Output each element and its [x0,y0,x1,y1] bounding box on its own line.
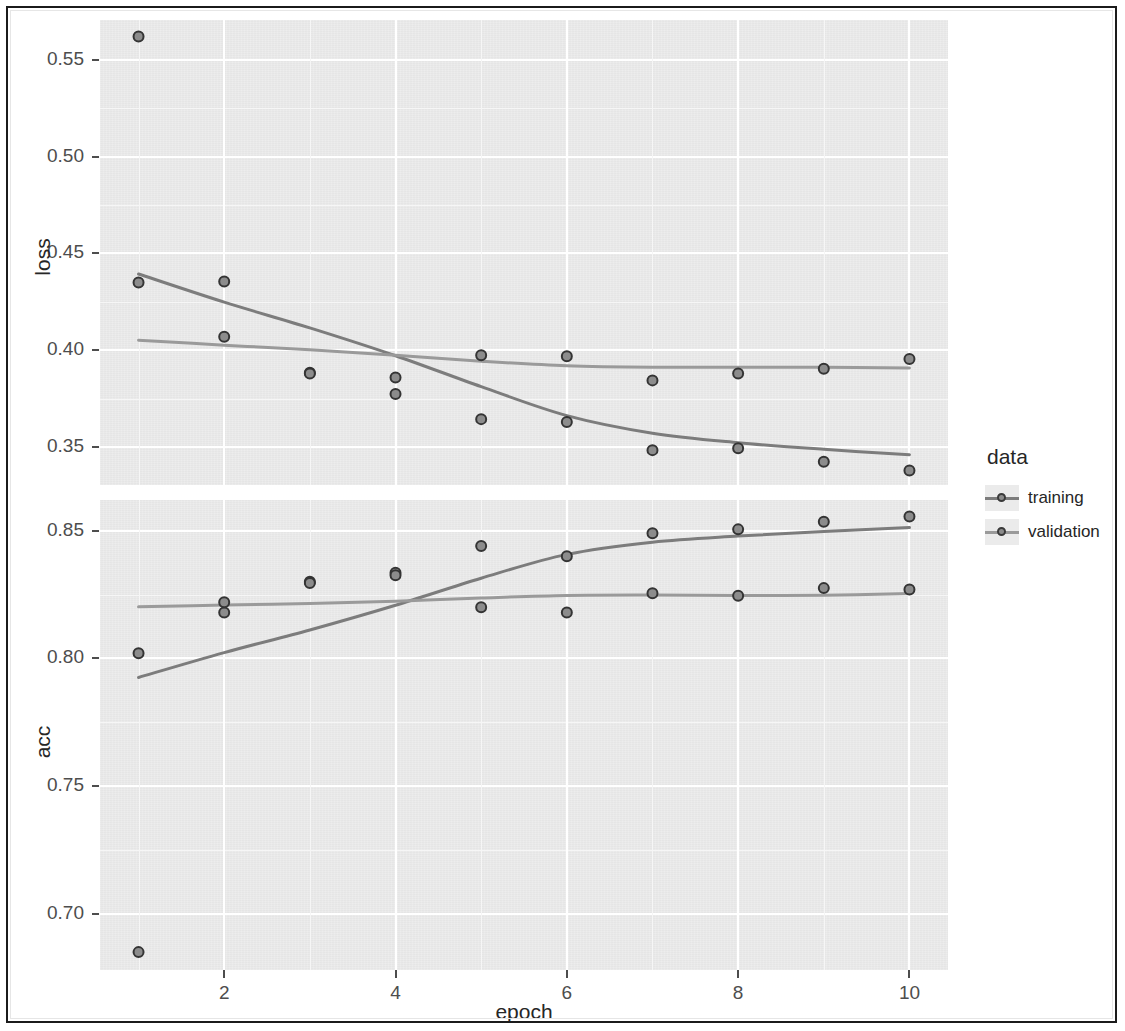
data-point-training [476,541,486,551]
data-point-validation [476,602,486,612]
smooth-line-validation [139,594,910,607]
legend-key-icon [985,519,1019,545]
smooth-line-training [139,528,910,678]
data-point-training [819,457,829,467]
legend-item-validation[interactable]: validation [985,517,1120,547]
x-axis-title: epoch [100,1000,948,1024]
panel-acc [100,500,948,970]
data-point-training [562,551,572,561]
legend-key-point [997,493,1006,502]
data-point-training [647,445,657,455]
data-point-validation [904,584,914,594]
y-tick-label: 0.80 [0,646,84,668]
series-layer-acc [100,500,948,970]
data-point-training [647,528,657,538]
smooth-line-validation [139,340,910,368]
legend-key-icon [985,485,1019,511]
data-point-training [562,417,572,427]
y-tick-mark [92,252,99,254]
legend-key-point [997,527,1006,536]
data-point-validation [305,578,315,588]
data-point-validation [134,278,144,288]
y-tick-label: 0.55 [0,48,84,70]
y-tick-label: 0.35 [0,435,84,457]
x-tick-mark [908,970,910,978]
data-point-validation [733,591,743,601]
data-point-validation [647,375,657,385]
y-axis-title-acc: acc [31,692,55,792]
data-point-training [219,607,229,617]
legend-title: data [987,445,1120,469]
series-layer-loss [100,20,948,485]
legend-item-training[interactable]: training [985,483,1120,513]
data-point-validation [647,588,657,598]
data-point-training [904,512,914,522]
y-tick-mark [92,657,99,659]
data-point-validation [305,369,315,379]
y-tick-label: 0.50 [0,145,84,167]
x-tick-mark [737,970,739,978]
data-point-training [219,277,229,287]
chart-figure: 0.550.500.450.400.350.850.800.750.702468… [0,0,1125,1031]
data-point-validation [391,372,401,382]
data-point-validation [476,350,486,360]
data-point-validation [819,583,829,593]
legend: data trainingvalidation [985,445,1120,551]
x-tick-mark [395,970,397,978]
data-point-training [391,389,401,399]
data-point-training [134,31,144,41]
data-point-training [819,517,829,527]
y-tick-mark [92,785,99,787]
y-tick-mark [92,156,99,158]
data-point-training [476,414,486,424]
x-tick-mark [223,970,225,978]
data-point-training [904,465,914,475]
y-tick-mark [92,913,99,915]
y-axis-title-loss: loss [31,207,55,307]
y-tick-label: 0.85 [0,519,84,541]
panel-loss [100,20,948,485]
y-tick-label: 0.40 [0,338,84,360]
legend-item-label: validation [1028,522,1100,542]
data-point-training [733,524,743,534]
y-tick-mark [92,349,99,351]
data-point-validation [134,648,144,658]
data-point-validation [733,369,743,379]
data-point-validation [391,570,401,580]
data-point-training [134,947,144,957]
data-point-validation [904,354,914,364]
data-point-validation [562,607,572,617]
y-tick-label: 0.70 [0,902,84,924]
data-point-validation [819,364,829,374]
x-tick-mark [566,970,568,978]
y-tick-mark [92,446,99,448]
data-point-validation [219,332,229,342]
data-point-validation [562,351,572,361]
legend-items: trainingvalidation [985,483,1120,547]
plot-area: 0.550.500.450.400.350.850.800.750.702468… [0,0,1125,1031]
data-point-training [733,443,743,453]
legend-item-label: training [1028,488,1084,508]
y-tick-mark [92,59,99,61]
y-tick-mark [92,530,99,532]
data-point-validation [219,597,229,607]
